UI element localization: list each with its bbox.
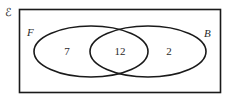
region-intersection-value: 12 xyxy=(115,45,126,57)
set-f-label: F xyxy=(26,26,34,38)
set-b-label: B xyxy=(204,27,211,39)
set-f-ellipse xyxy=(34,26,148,77)
venn-diagram: ℰ F B 7 12 2 xyxy=(0,0,226,99)
region-b-only-value: 2 xyxy=(166,45,172,57)
universal-set-symbol: ℰ xyxy=(5,6,12,18)
region-f-only-value: 7 xyxy=(64,45,70,57)
